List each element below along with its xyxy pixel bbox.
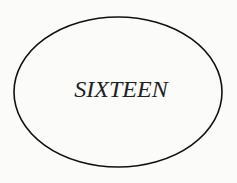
- node-label: SIXTEEN: [74, 76, 169, 102]
- diagram-canvas: SIXTEEN: [0, 0, 237, 183]
